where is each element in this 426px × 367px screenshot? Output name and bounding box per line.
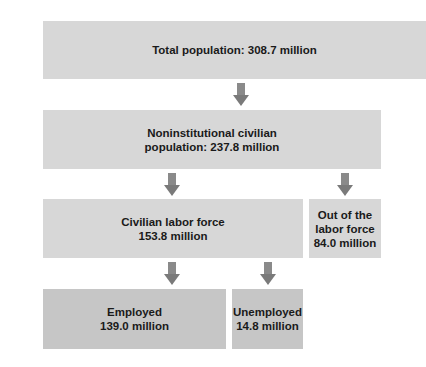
noninstitutional-label-line2: population: 237.8 million [145, 140, 280, 154]
unemployed-box: Unemployed 14.8 million [232, 289, 303, 349]
arrow-down-icon [337, 173, 353, 197]
civilian-labor-force-box: Civilian labor force 153.8 million [43, 199, 303, 258]
arrow-down-icon [164, 173, 180, 197]
noninstitutional-population-box: Noninstitutional civilian population: 23… [43, 110, 381, 169]
employed-box: Employed 139.0 million [43, 289, 226, 349]
noninstitutional-label-line1: Noninstitutional civilian [147, 126, 277, 140]
arrow-down-icon [233, 83, 249, 107]
arrow-down-icon [164, 262, 180, 286]
total-population-box: Total population: 308.7 million [43, 21, 426, 79]
arrow-down-icon [260, 262, 276, 286]
labor-force-label-line1: Civilian labor force [121, 215, 225, 229]
employed-label-line1: Employed [107, 305, 162, 319]
out-label-line1: Out of the [318, 208, 372, 222]
out-of-labor-force-box: Out of the labor force 84.0 million [309, 199, 381, 258]
out-label-line3: 84.0 million [314, 236, 377, 250]
employed-label-line2: 139.0 million [100, 319, 169, 333]
unemployed-label-line2: 14.8 million [236, 319, 299, 333]
labor-force-label-line2: 153.8 million [138, 229, 207, 243]
total-population-label: Total population: 308.7 million [152, 43, 317, 57]
out-label-line2: labor force [315, 222, 374, 236]
unemployed-label-line1: Unemployed [233, 305, 302, 319]
